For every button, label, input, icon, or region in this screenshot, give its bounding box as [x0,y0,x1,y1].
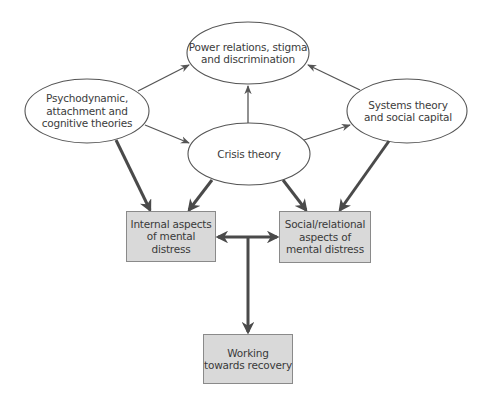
label-line: Systems theory [368,99,447,112]
box-line: of mental distress [127,230,215,255]
label-line: and discrimination [201,53,295,66]
label-line: attachment and [46,105,127,118]
label-line: and social capital [364,111,452,124]
label-power-relations: Power relations, stigma and discriminati… [188,30,308,76]
box-line: Social/relational [285,218,366,231]
arrow-psychodynamic-to-crisis [145,125,189,143]
arrow-crisis-to-social [283,180,306,210]
arrow-crisis-to-systems [304,125,350,140]
arrow-psychodynamic-to-internal [116,140,150,210]
label-systems-theory: Systems theory and social capital [348,86,468,136]
box-line: aspects of [299,231,351,244]
box-social-relational-aspects: Social/relational aspects of mental dist… [279,211,371,263]
box-working-towards-recovery: Working towards recovery [203,334,293,384]
box-line: mental distress [286,243,364,256]
arrow-systems-to-social [340,141,389,210]
label-psychodynamic: Psychodynamic, attachment and cognitive … [26,82,148,140]
label-line: Power relations, stigma [189,41,307,54]
label-line: Psychodynamic, [46,92,128,105]
label-line: Crisis theory [217,148,280,161]
box-line: towards recovery [204,359,292,372]
box-line: Working [227,347,268,360]
box-line: Internal aspects [131,218,212,231]
box-internal-aspects: Internal aspects of mental distress [126,211,216,262]
label-line: cognitive theories [42,117,133,130]
arrow-crisis-to-internal [189,180,212,210]
label-crisis-theory: Crisis theory [189,140,309,168]
